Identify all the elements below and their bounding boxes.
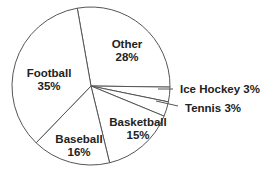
pie-chart: Other 28% Football 35% Basketball 15% Ba… <box>0 0 271 172</box>
label-ice-hockey: Ice Hockey 3% <box>180 83 260 95</box>
label-basketball-name: Basketball <box>109 116 167 128</box>
label-basketball-pct: 15% <box>126 129 149 141</box>
label-baseball-name: Baseball <box>55 133 102 145</box>
label-other-pct: 28% <box>115 51 138 63</box>
label-other-name: Other <box>112 38 143 50</box>
label-football-pct: 35% <box>37 80 60 92</box>
label-football-name: Football <box>27 67 72 79</box>
label-tennis: Tennis 3% <box>185 102 241 114</box>
label-baseball-pct: 16% <box>67 146 90 158</box>
